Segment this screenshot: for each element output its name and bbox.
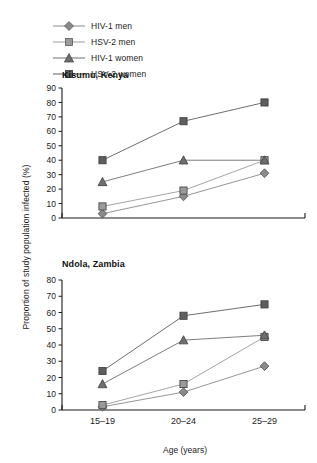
data-point-marker: [99, 367, 106, 374]
data-point-marker: [98, 177, 107, 185]
data-point-marker: [260, 362, 269, 371]
data-point-marker: [98, 209, 107, 218]
y-tick-label: 20: [47, 373, 57, 383]
y-tick-label: 0: [51, 405, 56, 415]
y-tick-label: 30: [47, 170, 57, 180]
data-point-marker: [260, 169, 269, 178]
legend-item-label: HIV-1 women: [86, 53, 143, 63]
data-point-marker: [261, 99, 268, 106]
data-point-marker: [98, 380, 107, 388]
y-tick-label: 10: [47, 199, 57, 209]
data-point-marker: [180, 380, 187, 387]
data-point-marker: [180, 118, 187, 125]
legend-item-label: HSV-2 men: [86, 37, 135, 47]
y-tick-label: 90: [47, 83, 57, 93]
y-tick-label: 50: [47, 324, 57, 334]
y-tick-label: 20: [47, 184, 57, 194]
figure-root: HIV-1 men HSV-2 men HIV-1 women: [0, 0, 317, 463]
data-point-marker: [99, 203, 106, 210]
panel-title-ndola: Ndola, Zambia: [62, 259, 125, 269]
series-line: [103, 102, 265, 160]
panel-title-kisumu: Kisumu, Kenya: [62, 70, 128, 80]
legend-item: HIV-1 women: [52, 50, 222, 66]
x-tick-label: 20–24: [171, 416, 196, 426]
data-point-marker: [180, 312, 187, 319]
y-tick-label: 30: [47, 356, 57, 366]
legend-item: HIV-1 men: [52, 18, 222, 34]
y-tick-label: 0: [51, 213, 56, 223]
y-axis-label: Proportion of study population infected …: [21, 142, 31, 352]
data-point-marker: [179, 388, 188, 397]
y-tick-label: 70: [47, 112, 57, 122]
data-point-marker: [261, 301, 268, 308]
x-axis-label: Age (years): [60, 445, 310, 455]
chart-kisumu-kenya: 0102030405060708090: [0, 80, 317, 230]
y-tick-label: 60: [47, 308, 57, 318]
x-tick-label: 15–19: [90, 416, 115, 426]
triangle-marker-icon: [52, 51, 86, 65]
data-point-marker: [99, 157, 106, 164]
y-tick-label: 40: [47, 340, 57, 350]
y-tick-label: 80: [47, 98, 57, 108]
legend-item-label: HIV-1 men: [86, 21, 132, 31]
y-tick-label: 60: [47, 126, 57, 136]
x-tick-label: 25–29: [252, 416, 277, 426]
y-tick-label: 50: [47, 141, 57, 151]
light-square-marker-icon: [52, 35, 86, 49]
y-tick-label: 10: [47, 389, 57, 399]
data-point-marker: [99, 402, 106, 409]
data-point-marker: [180, 187, 187, 194]
legend-item: HSV-2 men: [52, 34, 222, 50]
y-tick-label: 80: [47, 275, 57, 285]
y-tick-label: 40: [47, 155, 57, 165]
diamond-marker-icon: [52, 19, 86, 33]
y-tick-label: 70: [47, 291, 57, 301]
chart-ndola-zambia: 0102030405060708015–1920–2425–29: [0, 272, 317, 437]
